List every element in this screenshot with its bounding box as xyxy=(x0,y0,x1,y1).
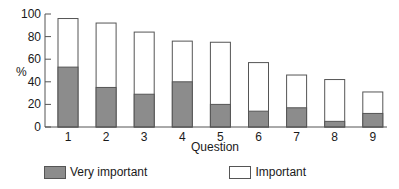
legend-swatch-very-important xyxy=(44,166,66,179)
y-tick-label: 0 xyxy=(34,120,41,134)
bar-group-q1 xyxy=(58,19,78,127)
x-tick-label: 2 xyxy=(103,130,110,144)
y-tick-label: 100 xyxy=(21,7,41,21)
bar-group-q3 xyxy=(134,32,154,127)
y-tick-label: 20 xyxy=(28,97,42,111)
y-tick-label: 80 xyxy=(28,30,42,44)
x-tick-label: 1 xyxy=(65,130,72,144)
bar-group-q4 xyxy=(172,41,192,127)
x-tick-label: 7 xyxy=(293,130,300,144)
x-axis-title: Question xyxy=(191,140,239,154)
bar-very-important xyxy=(96,87,116,127)
bars xyxy=(58,19,383,127)
legend-label: Important xyxy=(255,165,306,179)
x-tick-label: 6 xyxy=(255,130,262,144)
bar-very-important xyxy=(210,104,230,127)
bar-group-q9 xyxy=(363,92,383,127)
y-tick-label: 40 xyxy=(28,75,42,89)
bar-very-important xyxy=(249,111,269,127)
x-tick-label: 4 xyxy=(179,130,186,144)
legend: Very important Important xyxy=(44,164,330,180)
bar-very-important xyxy=(363,113,383,127)
bar-group-q6 xyxy=(249,63,269,127)
bar-very-important xyxy=(134,94,154,127)
bar-very-important xyxy=(287,108,307,127)
bar-very-important xyxy=(325,121,345,127)
bar-group-q8 xyxy=(325,80,345,127)
bar-group-q7 xyxy=(287,75,307,127)
x-tick-label: 9 xyxy=(369,130,376,144)
legend-item-important: Important xyxy=(229,165,306,179)
x-tick-label: 3 xyxy=(141,130,148,144)
bar-very-important xyxy=(172,82,192,127)
bar-important xyxy=(325,80,345,127)
y-tick-label: 60 xyxy=(28,52,42,66)
bar-chart: 020406080100 123456789 % Question xyxy=(0,0,399,189)
x-tick-label: 8 xyxy=(331,130,338,144)
bar-very-important xyxy=(58,67,78,127)
bar-group-q2 xyxy=(96,23,116,127)
y-axis-title: % xyxy=(16,65,27,79)
legend-swatch-important xyxy=(229,166,251,179)
legend-item-very-important: Very important xyxy=(44,165,147,179)
legend-label: Very important xyxy=(70,165,147,179)
bar-group-q5 xyxy=(210,42,230,127)
